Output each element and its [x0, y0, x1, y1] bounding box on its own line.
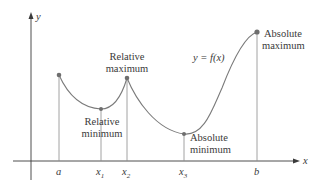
svg-text:Relative: Relative: [85, 116, 120, 127]
svg-text:maximum: maximum: [262, 40, 305, 51]
tick-label-a: a: [56, 166, 61, 177]
annotation-absolute-minimum: Absolute minimum: [190, 132, 231, 155]
point-relative-minimum: [99, 107, 103, 111]
point-relative-maximum: [125, 76, 130, 81]
y-axis-arrow-icon: [29, 12, 34, 19]
x-axis-label: x: [302, 155, 308, 166]
x-tick-labels: a x1 x2 x3 b: [56, 166, 259, 180]
svg-text:Absolute: Absolute: [190, 132, 228, 143]
svg-text:minimum: minimum: [190, 144, 231, 155]
x-axis-arrow-icon: [293, 159, 300, 164]
tick-label-b: b: [254, 166, 259, 177]
svg-text:minimum: minimum: [82, 128, 123, 139]
extreme-values-diagram: y x Relative maximum Relative minimum Ab…: [0, 0, 319, 189]
tick-label-x2: x2: [121, 166, 131, 180]
annotation-absolute-maximum: Absolute maximum: [262, 28, 305, 51]
svg-text:maximum: maximum: [106, 63, 149, 74]
annotation-relative-minimum: Relative minimum: [82, 116, 123, 139]
point-absolute-maximum: [254, 29, 259, 34]
y-axis: y: [29, 11, 42, 180]
point-a: [57, 73, 62, 78]
x-axis: x: [13, 155, 308, 166]
point-absolute-minimum: [182, 132, 186, 136]
tick-label-x1: x1: [95, 166, 104, 180]
y-axis-label: y: [35, 11, 41, 22]
annotation-relative-maximum: Relative maximum: [106, 51, 149, 74]
curve-label: y = f(x): [192, 52, 225, 64]
tick-label-x3: x3: [178, 166, 188, 180]
svg-text:Relative: Relative: [110, 51, 145, 62]
svg-text:Absolute: Absolute: [264, 28, 302, 39]
